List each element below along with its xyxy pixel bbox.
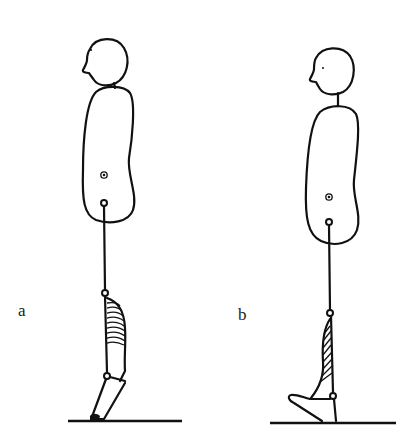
panel-b-center-of-mass-icon bbox=[326, 194, 332, 200]
panel-b-leg-upper bbox=[329, 225, 330, 310]
panel-a-figure bbox=[68, 39, 182, 421]
panel-b-foot bbox=[289, 395, 330, 421]
panel-a-center-of-mass-icon bbox=[101, 172, 107, 178]
panel-a-torso bbox=[83, 87, 135, 222]
panel-b-knee-joint bbox=[327, 310, 333, 316]
panel-a-ankle-joint bbox=[104, 373, 110, 379]
panel-a-label: a bbox=[18, 302, 26, 319]
biomechanics-figure: a b bbox=[0, 0, 420, 446]
panel-b-heel-link bbox=[334, 399, 336, 421]
panel-a-shank bbox=[105, 296, 107, 372]
panel-a-calf-hatching bbox=[107, 303, 125, 345]
panel-b-head bbox=[310, 48, 354, 94]
panel-a-leg-upper bbox=[104, 206, 105, 290]
figure-drawing bbox=[0, 0, 420, 446]
panel-b-ankle-joint bbox=[330, 393, 336, 399]
panel-a-foot bbox=[92, 379, 125, 419]
panel-b-label: b bbox=[238, 306, 247, 323]
panel-b-figure bbox=[270, 48, 396, 423]
panel-b-shank bbox=[331, 316, 333, 392]
panel-a-toes bbox=[90, 414, 100, 420]
panel-a-eye bbox=[90, 49, 92, 51]
panel-b-eye bbox=[322, 67, 324, 69]
panel-a-head bbox=[83, 39, 128, 85]
